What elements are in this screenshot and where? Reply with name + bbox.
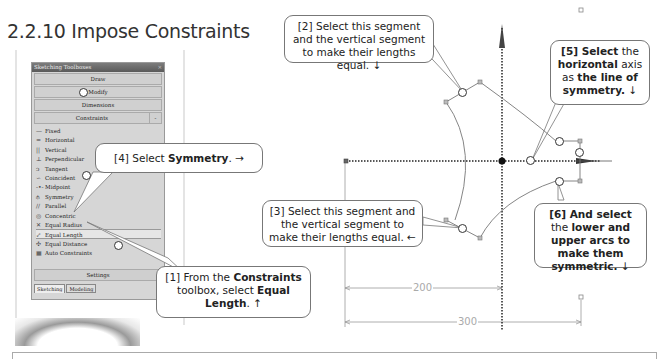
callout-bold-text: horizontal <box>558 58 618 70</box>
callout-bold-text: [5] Select <box>561 45 618 57</box>
callout-bold-text: Constraints <box>233 271 301 283</box>
callout-step2: [2] Select this segment and the vertical… <box>284 15 434 63</box>
next-section-box <box>12 352 657 359</box>
callout-text: the <box>618 45 639 57</box>
callout4-pointer <box>74 172 113 212</box>
callout-bold-text: Symmetry <box>168 152 228 164</box>
callout-step4: [4] Select Symmetry. → <box>95 143 263 173</box>
callout-text: . → <box>228 152 243 164</box>
callout-step6: [6] And select the lower and upper arcs … <box>534 203 647 268</box>
callout1-pointer <box>87 222 183 272</box>
marker-symmetry <box>82 171 91 180</box>
callout5-pointer <box>532 102 565 160</box>
dimension-300[interactable]: 300 <box>457 316 478 327</box>
callout-text: the <box>551 221 572 233</box>
callout-bold-text: [6] And select <box>549 208 632 220</box>
callout-text: ↓ <box>617 260 629 272</box>
callout-text: [4] Select <box>114 152 168 164</box>
callout3-pointer <box>423 217 463 228</box>
callout-text: ↓ <box>625 84 637 96</box>
callout-text: . ↑ <box>246 297 261 309</box>
marker-constraints <box>79 88 88 97</box>
marker-step3 <box>458 224 467 233</box>
marker-upper-arc <box>555 137 564 146</box>
callout-text: [1] From the <box>165 271 233 283</box>
marker-step2 <box>458 88 467 97</box>
marker-right-segment <box>575 148 584 157</box>
callout-step1: [1] From the Constraints toolbox, select… <box>156 266 311 318</box>
marker-step5 <box>526 156 535 165</box>
callout-step5: [5] Select the horizontal axis as the li… <box>550 40 650 105</box>
marker-equal-length <box>114 241 123 250</box>
dimension-200[interactable]: 200 <box>412 282 433 293</box>
callout-text: toolbox, select <box>177 284 257 296</box>
marker-lower-arc <box>555 177 564 186</box>
callout-text: [3] Select this segment and the vertical… <box>269 205 416 243</box>
callout-step3: [3] Select this segment and the vertical… <box>262 200 423 247</box>
